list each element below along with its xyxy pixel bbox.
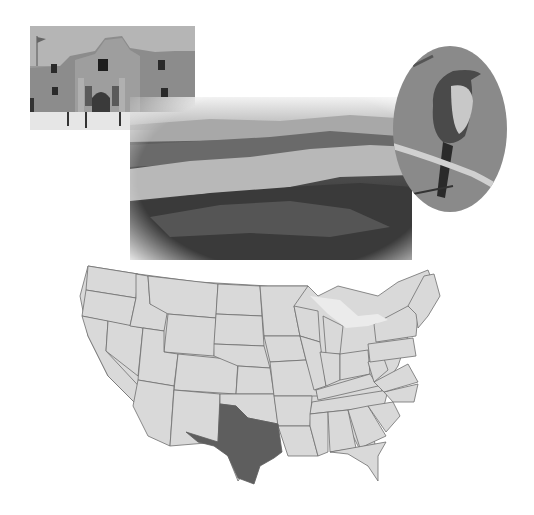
state-arizona <box>133 380 174 446</box>
us-map <box>78 256 483 486</box>
state-arkansas <box>274 396 312 426</box>
state-iowa <box>264 336 306 362</box>
state-north-dakota <box>216 284 262 316</box>
state-kansas <box>236 366 274 394</box>
state-south-dakota <box>214 314 264 346</box>
us-map-svg <box>78 256 483 486</box>
bird-image <box>393 46 507 212</box>
canyon-photo <box>130 97 412 260</box>
state-wyoming <box>164 314 216 356</box>
mockingbird-photo <box>393 46 507 212</box>
canyon-image <box>130 97 412 260</box>
